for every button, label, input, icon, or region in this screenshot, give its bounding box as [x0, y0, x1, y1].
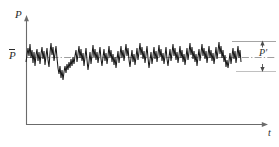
mean-pressure-symbol: P [9, 50, 16, 61]
fluctuation-label: P′ [259, 48, 267, 58]
x-axis-label: t [268, 128, 271, 138]
y-axis [24, 15, 29, 125]
mean-pressure-label: P [9, 50, 16, 61]
figure-canvas [0, 0, 279, 147]
pressure-signal-trace [26, 42, 241, 80]
y-axis-label: P [15, 9, 22, 20]
pressure-fluctuation-figure: P P P′ t [0, 0, 279, 147]
x-axis [27, 122, 269, 127]
